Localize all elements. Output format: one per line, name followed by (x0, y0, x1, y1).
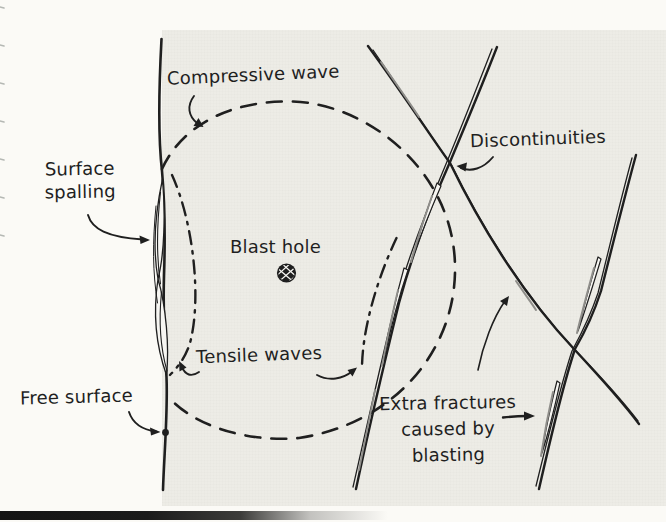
extra-fractures-label-line3: blasting (412, 443, 486, 465)
free-surface-dot (162, 429, 169, 436)
surface-spalling-label-line2: spalling (44, 180, 116, 202)
tensile-waves-arrow-right (317, 368, 357, 379)
free-surface-label: Free surface (20, 385, 133, 409)
surface-spalling-label-line1: Surface (45, 157, 115, 179)
surface-spalling-arrow (88, 215, 150, 244)
blast-hole-label: Blast hole (230, 236, 321, 257)
discontinuity-line-1 (368, 46, 639, 424)
surface-spalling-label: Surface spalling (24, 156, 137, 204)
free-surface-arrow (129, 412, 161, 436)
extra-fractures-label: Extra fractures caused by blasting (369, 389, 526, 470)
scan-edge-bar (0, 511, 388, 520)
page-edge-marks (0, 7, 4, 236)
discontinuities-arrow (457, 157, 494, 172)
blast-hole-icon (272, 261, 300, 288)
tensile-waves-label: Tensile waves (196, 342, 323, 367)
extra-fractures-label-line2: caused by (401, 417, 495, 440)
compressive-wave-arrow (189, 96, 203, 127)
sketch-canvas: Compressive wave Discontinuities Surface… (0, 0, 666, 522)
extra-fractures-curved-arrow (478, 296, 509, 370)
compressive-wave-circle (162, 101, 455, 438)
extra-fractures-label-line1: Extra fractures (379, 391, 516, 414)
